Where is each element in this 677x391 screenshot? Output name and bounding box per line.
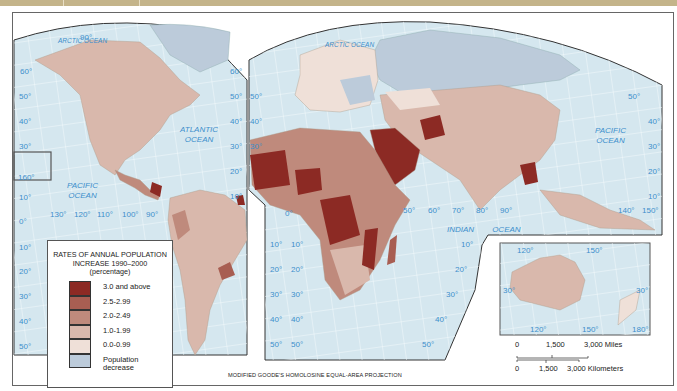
lat-label: 30° — [446, 290, 458, 299]
legend-item: 2.5-2.99 — [69, 296, 157, 311]
lat-label: 40° — [291, 315, 303, 324]
lat-label: 20° — [270, 265, 282, 274]
lat-label: 10° — [19, 243, 31, 252]
legend-item: 0.0-0.99 — [69, 339, 157, 354]
legend-item: Population decrease — [69, 354, 157, 369]
lat-label: 50° — [230, 92, 242, 101]
lon-label: 90° — [500, 206, 512, 215]
legend-label: Population decrease — [103, 356, 138, 372]
legend-label: 2.0-2.49 — [103, 312, 131, 320]
lat-label: 50° — [422, 340, 434, 349]
lat-label: 20° — [455, 265, 467, 274]
lon-label: 150° — [642, 206, 659, 215]
lat-label: 60° — [20, 67, 32, 76]
lon-label: 120° — [74, 210, 91, 219]
scale-miles-3000: 3,000 Miles — [584, 340, 622, 349]
lat-label: 0° — [285, 209, 293, 218]
lon-label: 110° — [97, 210, 113, 219]
indian-line2: OCEAN — [492, 225, 520, 235]
legend-label: 0.0-0.99 — [103, 341, 131, 349]
lon-label: 120° — [517, 246, 534, 255]
lat-label: 10° — [230, 192, 242, 201]
legend: RATES OF ANNUAL POPULATION INCREASE 1990… — [47, 240, 173, 388]
pacific-west-line1: PACIFIC — [67, 181, 98, 191]
scale-km-3000: 3,000 Kilometers — [567, 364, 623, 373]
legend-label-line2: decrease — [103, 364, 138, 372]
eastern-lobe — [249, 22, 662, 360]
lat-label: 30° — [636, 286, 648, 295]
lon-label: 120° — [530, 325, 547, 334]
legend-swatch — [69, 325, 91, 340]
legend-swatch — [69, 296, 91, 311]
pacific-west-line2: OCEAN — [67, 191, 98, 201]
lat-label: 40° — [250, 117, 262, 126]
pacific-ocean-label-east: PACIFIC OCEAN — [595, 126, 626, 146]
lat-label: 10° — [291, 240, 303, 249]
lat-label: 30° — [648, 142, 660, 151]
lat-label: 40° — [435, 315, 447, 324]
scale-km-0: 0 — [515, 364, 519, 373]
projection-label: MODIFIED GOODE'S HOMOLOSINE EQUAL-AREA P… — [228, 372, 402, 378]
lat-label: 10° — [270, 240, 282, 249]
lon-label: 100° — [122, 210, 139, 219]
lat-label: 50° — [628, 92, 640, 101]
lat-label: 50° — [19, 342, 31, 351]
lon-label: 130° — [50, 210, 67, 219]
lon-label: 80° — [476, 206, 488, 215]
lat-label: 20° — [19, 267, 31, 276]
lon-label: 60° — [428, 206, 440, 215]
lat-label: 30° — [291, 290, 303, 299]
lat-label: 20° — [291, 265, 303, 274]
lat-label: 20° — [230, 167, 242, 176]
indian-line1: INDIAN — [447, 225, 474, 235]
legend-swatch — [69, 339, 91, 354]
lon-label: 70° — [452, 206, 464, 215]
lat-label: 40° — [19, 117, 31, 126]
lat-label: 30° — [503, 286, 515, 295]
lat-label: 30° — [250, 142, 262, 151]
pacific-east-line1: PACIFIC — [595, 126, 626, 136]
lat-label: 40° — [230, 117, 242, 126]
lat-label: 10° — [648, 192, 660, 201]
lat-label: 0° — [19, 217, 27, 226]
lat-label: 20° — [648, 167, 660, 176]
legend-label: 3.0 and above — [103, 283, 151, 291]
lat-label: 50° — [291, 340, 303, 349]
atlantic-ocean-label: ATLANTIC OCEAN — [180, 125, 218, 145]
lat-label: 10° — [461, 240, 473, 249]
legend-swatch — [69, 354, 91, 369]
scale-km-1500: 1,500 — [539, 364, 558, 373]
lat-label: 10° — [19, 193, 31, 202]
legend-swatch — [69, 310, 91, 325]
indian-ocean-label: INDIAN OCEAN — [447, 225, 521, 235]
pacific-east-line2: OCEAN — [595, 136, 626, 146]
lat-label: 50° — [270, 340, 282, 349]
lat-label: 40° — [19, 317, 31, 326]
scale-miles-0: 0 — [515, 340, 519, 349]
legend-title: RATES OF ANNUAL POPULATION INCREASE 1990… — [48, 251, 172, 277]
legend-swatch — [69, 281, 91, 296]
lon-label: 90° — [146, 210, 158, 219]
arctic-ocean-label-east: ARCTIC OCEAN — [325, 40, 374, 50]
lon-label: 150° — [582, 325, 599, 334]
legend-title-line3: (percentage) — [48, 268, 172, 277]
atlantic-line1: ATLANTIC — [180, 125, 218, 135]
lat-label: 30° — [19, 142, 31, 151]
lat-label: 50° — [250, 92, 262, 101]
pacific-ocean-label-west: PACIFIC OCEAN — [67, 181, 98, 201]
lon-label: 160° — [18, 173, 35, 182]
legend-label: 2.5-2.99 — [103, 298, 131, 306]
lat-label: 90° — [80, 33, 92, 42]
lat-label: 30° — [270, 290, 282, 299]
lat-label: 30° — [230, 142, 242, 151]
lat-label: 40° — [270, 315, 282, 324]
atlantic-line2: OCEAN — [180, 135, 218, 145]
legend-item: 3.0 and above — [69, 281, 157, 296]
legend-label: 1.0-1.99 — [103, 327, 131, 335]
lat-label: 30° — [19, 292, 31, 301]
scale-bar — [517, 355, 588, 363]
legend-item: 2.0-2.49 — [69, 310, 157, 325]
lat-label: 50° — [19, 92, 31, 101]
lon-label: 50° — [403, 206, 415, 215]
lon-label: 140° — [618, 206, 635, 215]
